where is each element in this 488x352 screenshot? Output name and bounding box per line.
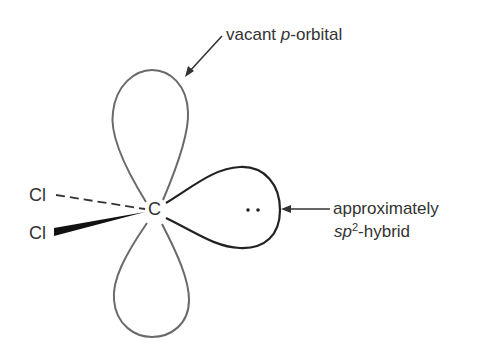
p-orbital-top-lobe bbox=[112, 70, 188, 202]
arrow-line-top bbox=[189, 36, 222, 72]
vacant-p-orbital-label: vacant p-orbital bbox=[226, 26, 342, 43]
carbon-atom-label: C bbox=[148, 200, 161, 218]
label-italic: sp bbox=[334, 222, 352, 241]
sp2-hybrid-lobe bbox=[166, 167, 280, 248]
arrowhead-right bbox=[281, 205, 291, 213]
sp2-hybrid-label: sp2-hybrid bbox=[334, 222, 410, 240]
label-text: -orbital bbox=[290, 25, 342, 44]
p-orbital-bottom-lobe bbox=[114, 223, 189, 337]
dashed-bond bbox=[56, 195, 145, 209]
lone-pair-dot bbox=[256, 208, 260, 212]
orbital-diagram-canvas bbox=[0, 0, 488, 352]
label-italic: p bbox=[281, 25, 290, 44]
label-text: vacant bbox=[226, 25, 281, 44]
label-text: -hybrid bbox=[358, 222, 410, 241]
chlorine-label-dashed: Cl bbox=[29, 186, 46, 204]
wedge-bond bbox=[54, 212, 145, 236]
lone-pair-dot bbox=[246, 208, 250, 212]
chlorine-label-wedge: Cl bbox=[29, 224, 46, 242]
approximately-label: approximately bbox=[333, 200, 439, 217]
